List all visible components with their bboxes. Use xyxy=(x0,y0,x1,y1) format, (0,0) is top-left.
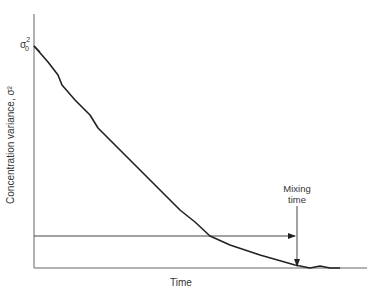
y-axis-label-text: Concentration variance, σ² xyxy=(5,86,16,204)
mixing-label-line1: Mixing xyxy=(278,183,316,194)
mixing-label-line2: time xyxy=(278,194,316,205)
sigma0-pointer xyxy=(34,46,40,52)
chart-canvas xyxy=(0,0,381,303)
variance-curve xyxy=(34,46,340,268)
x-axis-label: Time xyxy=(170,277,192,288)
sigma-subscript: 0 xyxy=(25,45,29,52)
sigma-superscript: 2 xyxy=(26,36,30,43)
mixing-time-annotation: Mixing time xyxy=(278,183,316,205)
sigma0-label: σ20 xyxy=(20,38,29,52)
